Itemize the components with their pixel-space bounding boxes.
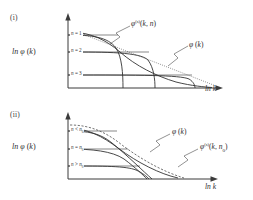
panel-ii-level-label-n-lt-n0: n < n0 bbox=[70, 127, 84, 132]
y-axis-arrow-icon bbox=[65, 112, 70, 120]
panel-ii-level-label-n-eq-n0: n = n0 bbox=[70, 145, 84, 150]
panel-ii-level-label-n-gt-n0: n > n0 bbox=[70, 162, 84, 167]
panel-ii-dashed-curve bbox=[70, 125, 184, 178]
panel-ii-curve-label-phi: φ (k) bbox=[172, 127, 186, 136]
panel-ii-leader-lines bbox=[150, 134, 198, 167]
panel-ii-plot bbox=[0, 0, 253, 200]
panel-ii-curve-label-phi-s: φ(s)(k, n0) bbox=[200, 142, 227, 151]
panel-ii-cutoff-curves bbox=[68, 131, 152, 179]
panel-ii-axes bbox=[65, 112, 218, 182]
figure-root: (i) ln φ (k) ln k bbox=[0, 0, 253, 200]
x-axis-arrow-icon bbox=[211, 176, 219, 181]
